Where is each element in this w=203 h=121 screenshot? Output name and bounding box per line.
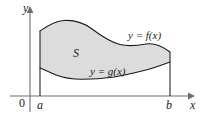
area-between-curves-figure: y x 0 a b S y = f(x) y = g(x): [0, 0, 203, 121]
upper-curve-label: y = f(x): [128, 30, 161, 41]
y-axis-label: y: [23, 2, 28, 14]
figure-canvas: [0, 0, 203, 121]
upper-bound-label-b: b: [166, 99, 172, 111]
origin-label: 0: [19, 97, 25, 109]
lower-bound-label-a: a: [37, 99, 43, 111]
x-axis-label: x: [190, 99, 195, 111]
region-label-S: S: [73, 47, 79, 59]
lower-curve-label: y = g(x): [90, 66, 126, 77]
